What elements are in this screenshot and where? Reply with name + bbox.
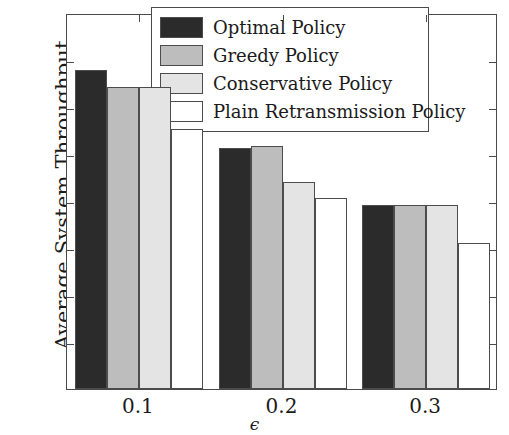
x-axis-tick	[283, 382, 284, 389]
legend-item-optimal-policy: Optimal Policy	[160, 13, 420, 41]
bar	[107, 87, 139, 389]
y-axis-tick	[67, 250, 74, 251]
bar	[139, 87, 171, 389]
y-axis-tick	[67, 297, 74, 298]
y-axis-tick	[489, 109, 496, 110]
x-axis-tick-label: 0.1	[98, 394, 178, 418]
bar	[426, 205, 458, 389]
x-axis-tick	[426, 15, 427, 22]
bar	[251, 146, 283, 389]
x-axis-tick-label: 0.3	[385, 394, 465, 418]
bar	[219, 148, 251, 389]
x-axis-tick-label: 0.2	[242, 394, 322, 418]
legend-item-conservative-policy: Conservative Policy	[160, 69, 420, 97]
bar-chart-figure: Average System Throughput ϵ Optimal Poli…	[0, 0, 509, 435]
y-axis-tick	[489, 156, 496, 157]
legend-item-greedy-policy: Greedy Policy	[160, 41, 420, 69]
chart-legend: Optimal Policy Greedy Policy Conservativ…	[151, 7, 429, 132]
legend-label-conservative-policy: Conservative Policy	[213, 73, 392, 94]
legend-label-optimal-policy: Optimal Policy	[213, 17, 346, 38]
x-axis-tick	[139, 382, 140, 389]
y-axis-tick	[67, 62, 74, 63]
x-axis-tick	[426, 382, 427, 389]
x-axis-tick	[139, 15, 140, 22]
bar	[394, 205, 426, 389]
y-axis-tick	[67, 203, 74, 204]
bar	[283, 182, 315, 389]
y-axis-tick	[67, 109, 74, 110]
legend-swatch-greedy-policy	[160, 45, 203, 66]
legend-item-plain-retransmission-policy: Plain Retransmission Policy	[160, 97, 420, 125]
legend-label-greedy-policy: Greedy Policy	[213, 45, 339, 66]
x-axis-tick	[283, 15, 284, 22]
bar	[75, 70, 107, 389]
y-axis-tick	[67, 156, 74, 157]
bar	[171, 129, 203, 389]
legend-label-plain-retransmission-policy: Plain Retransmission Policy	[213, 101, 465, 122]
y-axis-tick	[489, 203, 496, 204]
y-axis-tick	[489, 62, 496, 63]
legend-swatch-optimal-policy	[160, 17, 203, 38]
bar	[458, 243, 490, 389]
bar	[315, 198, 347, 389]
bar	[362, 205, 394, 389]
y-axis-tick	[67, 344, 74, 345]
